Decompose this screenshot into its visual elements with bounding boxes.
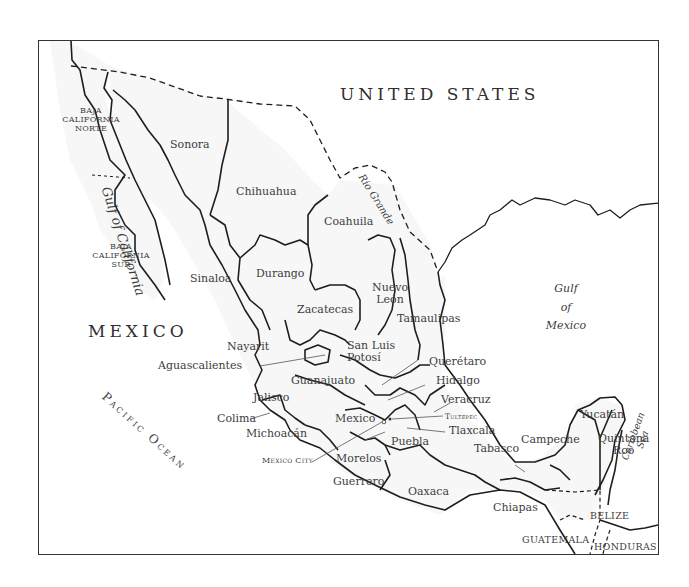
label-tabasco: Tabasco (474, 443, 519, 455)
label-baja-california-norte: BAJA CALIFORNIA NORTE (56, 107, 126, 133)
label-aguascalientes: Aguascalientes (158, 360, 242, 372)
label-queretaro: Querétaro (429, 356, 486, 368)
label-guanajuato: Guanajuato (291, 375, 355, 387)
label-michoacan: Michoacán (246, 428, 307, 440)
gulf-line3: Mexico (536, 317, 596, 336)
label-sinaloa: Sinaloa (190, 273, 231, 285)
gulf-line1: Gulf (536, 280, 596, 299)
label-gulf-of-mexico: Gulf of Mexico (536, 280, 596, 336)
label-mexico-state: Mexico (335, 413, 375, 425)
label-oaxaca: Oaxaca (408, 486, 449, 498)
label-morelos: Morelos (336, 453, 381, 465)
label-san-luis-potosi: San Luis Potosí (347, 340, 395, 364)
label-guatemala: GUATEMALA (522, 535, 589, 545)
label-nuevo-leon: Nuevo León (372, 282, 408, 306)
label-quintana-roo: Quintana Roo (598, 433, 649, 457)
label-nayarit: Nayarit (227, 341, 269, 353)
label-hidalgo: Hidalgo (436, 375, 480, 387)
label-veracruz: Veracruz (441, 394, 491, 406)
label-chiapas: Chiapas (493, 502, 538, 514)
label-tamaulipas: Tamaulipas (397, 313, 460, 325)
tultepec-marker (389, 418, 392, 421)
label-campeche: Campeche (521, 434, 580, 446)
honduras-coast (600, 520, 658, 530)
label-jalisco: Jalisco (253, 392, 289, 404)
baja-norte-line3: NORTE (56, 125, 126, 134)
label-mexico: MEXICO (88, 322, 188, 341)
slp-line2: Potosí (347, 352, 395, 364)
label-zacatecas: Zacatecas (297, 304, 353, 316)
label-united-states: UNITED STATES (340, 85, 540, 104)
label-sonora: Sonora (170, 139, 210, 151)
label-chihuahua: Chihuahua (236, 186, 296, 198)
label-belize: BELIZE (590, 511, 629, 521)
label-durango: Durango (256, 268, 304, 280)
mexico-city-marker (382, 420, 386, 424)
label-guerrero: Guerrero (333, 476, 384, 488)
label-puebla: Puebla (391, 436, 429, 448)
label-coahuila: Coahuila (324, 216, 373, 228)
label-tultepec: Tultepec (445, 413, 477, 421)
label-honduras: HONDURAS (594, 542, 657, 552)
label-colima: Colima (217, 413, 256, 425)
us-gulf-coast (438, 198, 660, 272)
nuevo-leon-line2: León (372, 294, 408, 306)
label-tlaxcala: Tlaxcala (449, 425, 495, 437)
label-yucatan: Yucatán (580, 409, 624, 421)
label-mexico-city: Mexico City (262, 457, 313, 466)
qroo-line2: Roo (598, 445, 649, 457)
gulf-line2: of (536, 299, 596, 318)
